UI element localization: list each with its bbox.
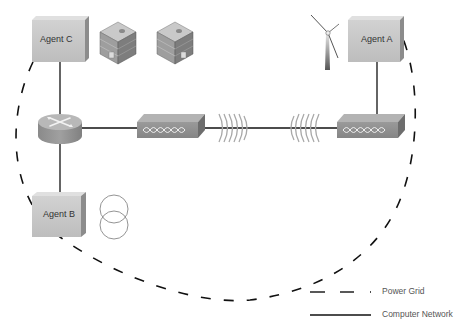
legend-power-grid-label: Power Grid <box>382 286 425 296</box>
legend-computer-network-label: Computer Network <box>382 309 453 319</box>
diagram-canvas: Agent C Agent A Agent B Power Grid Compu… <box>0 0 465 336</box>
building-icon <box>157 22 193 64</box>
wind-turbine-icon <box>311 15 339 70</box>
wireless-bridge-icon[interactable] <box>137 114 205 138</box>
building-icon <box>100 22 136 64</box>
agent-c-label: Agent C <box>40 34 73 44</box>
transformer-icon <box>100 195 128 239</box>
router-icon[interactable] <box>38 114 82 144</box>
agent-a-label: Agent A <box>361 34 393 44</box>
wireless-bridge-icon[interactable] <box>337 114 405 138</box>
network-links <box>60 60 377 192</box>
power-grid-loop <box>16 36 415 301</box>
agent-b-label: Agent B <box>43 209 75 219</box>
